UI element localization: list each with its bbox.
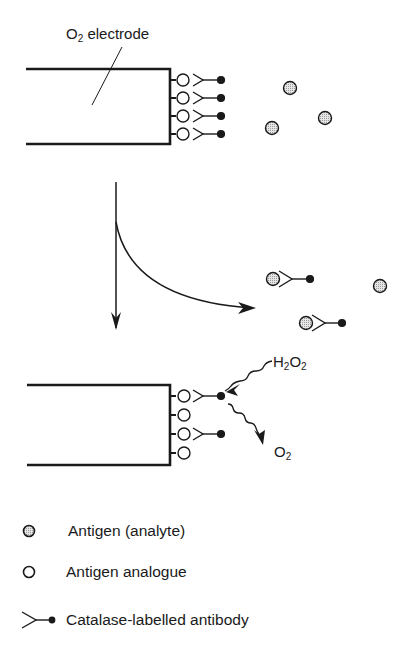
h2o2-wavy-arrow — [225, 361, 272, 391]
h2o2-h: H — [273, 353, 284, 370]
antibody-analyte-complex — [267, 271, 314, 287]
electrode-top — [26, 47, 170, 144]
o2-label: O2 — [274, 444, 291, 462]
free-analytes-top — [266, 82, 332, 135]
h2o2-o: O — [289, 353, 301, 370]
bound-complex — [170, 110, 224, 122]
diagram-canvas — [0, 0, 406, 666]
free-complexes — [267, 271, 387, 331]
analyte-antigen — [266, 122, 279, 135]
catalase-antibody-symbol-icon — [22, 612, 55, 628]
o2-sub: 2 — [286, 451, 292, 462]
analyte-antigen — [374, 280, 387, 293]
legend-label-analyte: Antigen (analyte) — [68, 523, 185, 539]
legend-symbols — [22, 526, 55, 629]
electrode-label-o: O — [66, 25, 78, 42]
h2o2-label: H2O2 — [273, 354, 307, 372]
o2-wavy-arrow — [228, 404, 259, 434]
antigen-analyte-symbol-icon — [24, 526, 35, 537]
antigen-analogue-symbol-icon — [24, 567, 35, 578]
analyte-antigen — [284, 82, 297, 95]
free-analogue-site — [170, 447, 190, 459]
electrode-label: O2 electrode — [66, 26, 149, 44]
bound-complex — [170, 74, 224, 86]
antibody-analyte-complex — [300, 315, 346, 331]
bound-units-bottom — [170, 390, 224, 459]
h2o2-arrowhead-icon — [226, 384, 240, 396]
curved-arrowhead-icon — [238, 302, 256, 314]
curved-arrow-shaft — [116, 222, 252, 308]
analyte-antigen — [319, 112, 332, 125]
process-arrows — [111, 182, 256, 330]
o2-arrowhead-icon — [254, 430, 265, 445]
bound-antibody-complexes-top — [170, 74, 224, 140]
legend-label-antibody: Catalase-labelled antibody — [66, 612, 249, 628]
reaction-arrows — [225, 361, 272, 445]
free-analogue-site — [170, 409, 190, 421]
bound-complex — [170, 128, 224, 140]
h2o2-o-sub: 2 — [301, 361, 307, 372]
legend-label-analogue: Antigen analogue — [66, 564, 187, 580]
electrode-bottom — [27, 385, 170, 465]
electrode-label-rest: electrode — [83, 25, 149, 42]
bound-complex — [170, 390, 224, 402]
bound-complex — [170, 428, 224, 440]
o2-o: O — [274, 443, 286, 460]
bound-complex — [170, 92, 224, 104]
